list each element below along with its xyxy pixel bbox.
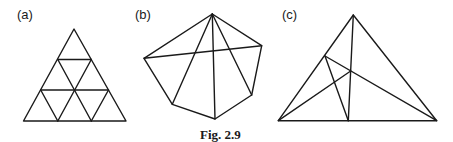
- outer-triangle: [24, 29, 127, 121]
- panel-b-label: (b): [135, 7, 151, 22]
- figure-canvas: (a) (b) Fig. 2.9 (c): [0, 0, 453, 142]
- figure-caption: Fig. 2.9: [200, 127, 241, 142]
- panel-a-label: (a): [17, 7, 33, 22]
- diag-2: [41, 90, 58, 121]
- panel-b: (b) Fig. 2.9: [135, 7, 262, 142]
- cevian-1: [325, 56, 437, 121]
- diag-4: [91, 90, 108, 121]
- panel-c: (c): [278, 7, 436, 121]
- cevian-3: [348, 15, 353, 121]
- panel-c-label: (c): [282, 7, 297, 22]
- outer-polygon: [144, 14, 262, 119]
- cevian-2: [325, 56, 348, 121]
- panel-a: (a): [17, 7, 126, 121]
- diagonal-2: [212, 14, 215, 119]
